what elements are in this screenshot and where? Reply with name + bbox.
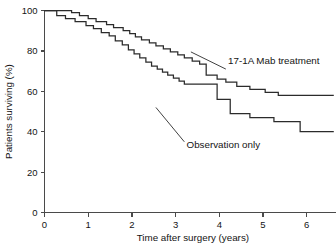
x-tick-label: 4 <box>217 219 222 230</box>
x-axis-title: Time after surgery (years) <box>137 232 249 243</box>
y-tick-label: 40 <box>27 126 38 137</box>
kaplan-meier-figure: 020406080100 0123456 17-1A Mab treatment… <box>0 0 336 252</box>
x-tick-label: 1 <box>86 219 91 230</box>
axes-group <box>45 11 336 213</box>
y-tick-label: 60 <box>27 86 38 97</box>
x-tick-label: 5 <box>260 219 265 230</box>
x-tick-label: 6 <box>304 219 309 230</box>
x-tick-label: 3 <box>173 219 178 230</box>
series-label-treatment: 17-1A Mab treatment <box>228 55 320 66</box>
survival-curve-treatment <box>45 11 334 96</box>
y-tick-label: 80 <box>27 45 38 56</box>
survival-curve-observation <box>45 11 334 132</box>
series-annotations: 17-1A Mab treatmentObservation only <box>156 52 320 150</box>
x-tick-label: 0 <box>42 219 47 230</box>
y-tick-label: 100 <box>22 5 38 16</box>
annotation-leader-line <box>156 107 184 141</box>
y-tick-label: 20 <box>27 167 38 178</box>
y-tick-label: 0 <box>32 207 37 218</box>
y-axis-title: Patients surviving (%) <box>3 64 14 159</box>
survival-chart-svg: 020406080100 0123456 17-1A Mab treatment… <box>0 0 336 252</box>
series-label-observation: Observation only <box>187 139 261 150</box>
survival-curves <box>45 11 334 132</box>
x-tick-label: 2 <box>129 219 134 230</box>
x-axis-ticks: 0123456 <box>42 213 309 230</box>
y-axis-ticks: 020406080100 <box>22 5 45 218</box>
